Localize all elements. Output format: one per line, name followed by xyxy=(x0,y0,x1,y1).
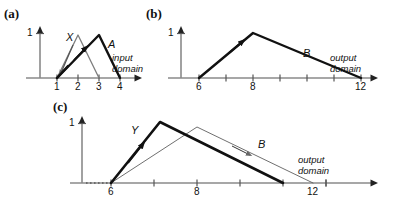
panel-b-domain-label-line1: output xyxy=(330,53,361,64)
panel-a-set-label-A: A xyxy=(108,38,115,50)
figure-root: (a) 1 1 2 3 4 X A input domain (b) 1 6 8… xyxy=(0,0,398,206)
panel-a-x-tick-label-4: 4 xyxy=(117,81,123,92)
panel-b-x-axis-arrow xyxy=(371,75,379,82)
panel-b-x-tick-label-8: 8 xyxy=(250,81,256,92)
panel-b-domain-label-line2: domain xyxy=(330,64,361,75)
panel-a-y-label-1: 1 xyxy=(27,27,33,38)
panel-c-set-label-B: B xyxy=(258,138,265,150)
panel-a-domain-label: input domain xyxy=(112,53,143,74)
panel-a-arrow-A xyxy=(74,48,86,61)
panel-b-set-label-B: B xyxy=(303,47,310,59)
panel-c-curve-B xyxy=(111,127,313,183)
panel-c-x-axis-arrow xyxy=(371,180,379,187)
panel-b-label: (b) xyxy=(146,6,162,22)
panel-c-domain-label: output domain xyxy=(298,155,329,176)
panel-a-y-axis-arrow xyxy=(37,26,43,33)
panel-a-domain-label-line1: input xyxy=(112,53,143,64)
panel-c-plot xyxy=(70,116,378,187)
panel-c-label: (c) xyxy=(53,99,67,115)
panel-c-set-label-Y: Y xyxy=(131,124,138,136)
panel-c-x-tick-label-12: 12 xyxy=(307,186,318,197)
panel-c-y-axis-arrow xyxy=(79,116,85,123)
panel-b-domain-label: output domain xyxy=(330,53,361,74)
panel-c-y-label-1: 1 xyxy=(69,117,75,128)
panel-c-arrow-B xyxy=(232,146,250,155)
panel-c-arrow-Y xyxy=(128,144,143,163)
panel-b-x-tick-label-6: 6 xyxy=(196,81,202,92)
panel-c-domain-label-line2: domain xyxy=(298,166,329,177)
panel-a-label: (a) xyxy=(4,6,19,22)
panel-a-x-axis-arrow xyxy=(135,75,143,82)
panel-a-domain-label-line2: domain xyxy=(112,64,143,75)
panel-a-set-label-X: X xyxy=(66,31,73,43)
panel-a-x-tick-label-1: 1 xyxy=(54,81,60,92)
panel-c-x-tick-label-6: 6 xyxy=(108,186,114,197)
panel-a-x-tick-label-2: 2 xyxy=(75,81,81,92)
panel-c-x-tick-label-8: 8 xyxy=(194,186,200,197)
panel-c-domain-label-line1: output xyxy=(298,155,329,166)
panel-b-y-axis-arrow xyxy=(178,26,184,33)
panel-a-x-tick-label-3: 3 xyxy=(96,81,102,92)
panel-b-x-tick-label-12: 12 xyxy=(355,81,366,92)
panel-b-arrow-B xyxy=(229,41,243,53)
panel-b-y-label-1: 1 xyxy=(168,27,174,38)
